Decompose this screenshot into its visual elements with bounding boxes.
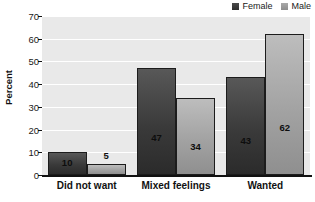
bar-male	[265, 34, 304, 175]
bar-group: 105	[48, 16, 126, 175]
x-axis-line	[42, 175, 312, 177]
legend-label-female: Female	[242, 2, 272, 11]
bar-female	[137, 68, 176, 175]
bar-value-label: 5	[87, 150, 126, 161]
legend-item-female: Female	[232, 2, 272, 11]
bar-group: 4362	[226, 16, 304, 175]
bar-female	[226, 77, 265, 175]
legend-item-male: Male	[281, 2, 311, 11]
bar-value-label: 10	[48, 157, 87, 168]
y-axis-title: Percent	[1, 0, 15, 175]
bar-chart: Female Male Percent 010203040506070 1054…	[0, 0, 315, 202]
y-axis-tick-labels: 010203040506070	[18, 0, 39, 202]
x-axis-tick-label: Mixed feelings	[131, 180, 220, 191]
bar-value-label: 62	[265, 122, 304, 133]
x-axis-tick-label: Did not want	[42, 180, 131, 191]
bar-value-label: 47	[137, 132, 176, 143]
bar-male	[176, 98, 215, 175]
bar-groups: 10547344362	[42, 16, 310, 175]
chart-legend: Female Male	[232, 2, 311, 11]
bar-value-label: 34	[176, 141, 215, 152]
x-axis-tick-labels: Did not wantMixed feelingsWanted	[42, 180, 310, 200]
legend-swatch-male-icon	[281, 3, 288, 10]
y-axis-title-text: Percent	[3, 70, 14, 105]
bar-value-label: 43	[226, 135, 265, 146]
plot-area: 10547344362	[42, 16, 310, 175]
x-axis-tick-label: Wanted	[221, 180, 310, 191]
legend-label-male: Male	[291, 2, 311, 11]
legend-swatch-female-icon	[232, 3, 239, 10]
bar-male	[87, 164, 126, 175]
bar-group: 4734	[137, 16, 215, 175]
